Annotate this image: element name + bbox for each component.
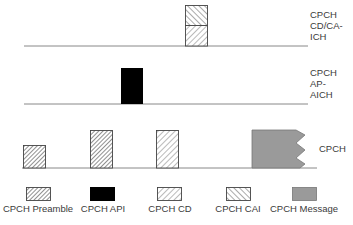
channel-label-cpch: CPCH: [319, 143, 346, 154]
preamble-block-1: [24, 146, 46, 169]
label-line: CPCH: [319, 143, 346, 154]
row-ap-aich: [24, 68, 308, 104]
cd-block: [157, 131, 179, 169]
legend-swatch-cd: [158, 188, 182, 201]
label-line: AP-: [310, 78, 337, 89]
cpch-timing-diagram: [0, 0, 353, 225]
row-cpch: [22, 130, 317, 168]
legend-swatches: [27, 187, 317, 201]
preamble-block-2: [91, 131, 113, 169]
legend-swatch-cai: [227, 188, 251, 201]
label-line: ICH: [310, 31, 343, 42]
label-line: AICH: [310, 89, 337, 100]
message-block: [252, 130, 305, 168]
legend-swatch-preamble: [27, 188, 51, 201]
legend-swatch-api: [90, 187, 115, 201]
label-line: CPCH: [310, 9, 343, 20]
channel-label-cd-caich: CPCH CD/CA- ICH: [310, 9, 343, 42]
legend-label-cai: CPCH CAI: [215, 203, 260, 214]
label-line: CPCH: [310, 67, 337, 78]
legend-swatch-message: [293, 188, 317, 201]
legend-label-api: CPCH API: [81, 203, 125, 214]
cai-block: [186, 6, 208, 26]
legend-label-preamble: CPCH Preamble: [3, 203, 73, 214]
legend-label-message: CPCH Message: [270, 203, 338, 214]
row-cd-caich: [24, 6, 308, 47]
legend-label-cd: CPCH CD: [148, 203, 191, 214]
cd-block-top: [186, 26, 208, 47]
label-line: CD/CA-: [310, 20, 343, 31]
channel-label-ap-aich: CPCH AP- AICH: [310, 67, 337, 100]
api-block: [121, 68, 143, 104]
